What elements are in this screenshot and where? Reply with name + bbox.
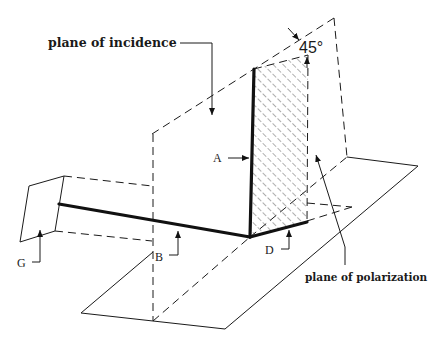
label-angle-45: 45° [299, 39, 323, 56]
label-plane-of-polarization: plane of polarization [305, 271, 428, 283]
callout-g: G [17, 230, 40, 270]
label-d: D [265, 243, 274, 257]
callout-d: D [265, 230, 289, 257]
callout-plane-of-incidence: plane of incidence [48, 35, 212, 115]
label-b: B [155, 250, 163, 264]
label-g: G [17, 256, 26, 270]
label-plane-of-incidence: plane of incidence [48, 35, 177, 50]
callout-plane-of-polarization: plane of polarization [305, 155, 428, 283]
floor-plane [81, 157, 418, 329]
optics-polarization-diagram: plane of incidence 45° A B D G plane of … [0, 0, 435, 345]
callout-a: A [213, 151, 249, 165]
label-a: A [213, 151, 222, 165]
callout-b: B [155, 231, 178, 264]
